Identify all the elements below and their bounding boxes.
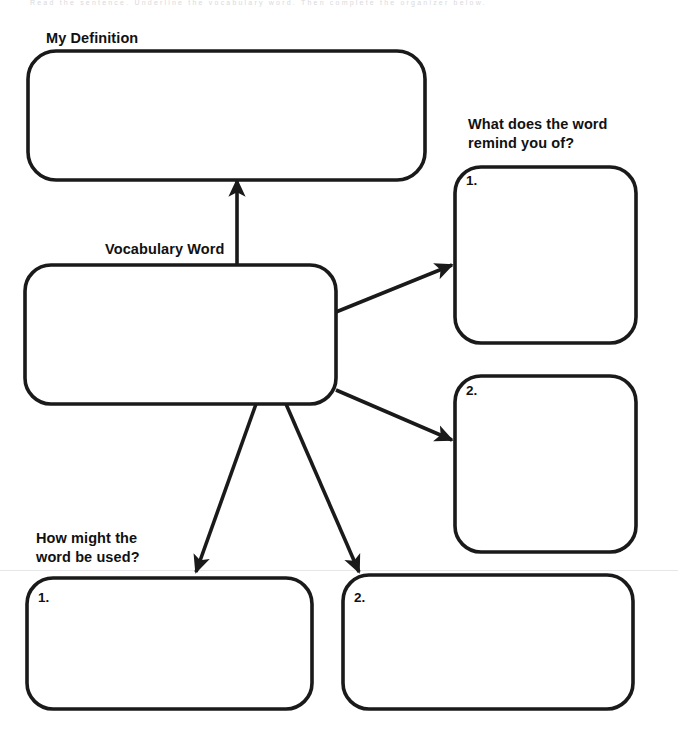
usage-box-2[interactable] [343,575,633,709]
diagram-canvas [0,0,678,736]
my-definition-box[interactable] [28,51,425,180]
arrow-vocab-to-usage-2 [286,404,359,572]
usage-box-2-number: 2. [354,590,365,605]
remind-box-1-number: 1. [466,173,477,188]
arrow-vocab-to-remind-2 [336,390,452,440]
arrow-vocab-to-usage-1 [196,404,256,572]
remind-box-2-number: 2. [466,383,477,398]
arrow-vocab-to-remind-1 [336,265,452,312]
remind-box-2[interactable] [455,376,636,552]
vocabulary-worksheet: Read the sentence. Underline the vocabul… [0,0,678,736]
label-remind-you-of: What does the word remind you of? [468,115,658,154]
label-my-definition: My Definition [46,29,138,48]
remind-box-1[interactable] [455,167,636,343]
label-how-might-word-be-used: How might the word be used? [36,529,196,568]
vocabulary-word-box[interactable] [25,265,336,404]
usage-box-1[interactable] [27,578,312,709]
label-vocabulary-word: Vocabulary Word [105,240,224,259]
usage-box-1-number: 1. [38,590,49,605]
